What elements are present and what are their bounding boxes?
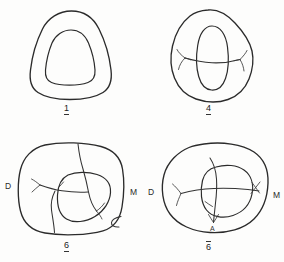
panel-4-orientation-mesial: M [273, 191, 280, 200]
panel-2-right-branch-lower [240, 60, 244, 72]
panel-4-transverse-fissure [181, 188, 259, 193]
panel-4-bottom-fork-left [209, 215, 214, 223]
figure-plate: 1 4 [0, 0, 284, 262]
panel-4-orientation-distal: D [148, 188, 154, 197]
panel-2-left-branch-upper [177, 50, 185, 59]
panel-4-left-branch-lower [177, 194, 182, 206]
panel-4-drawing [142, 131, 284, 262]
panel-3-inner-cusp-loop [57, 172, 110, 221]
panel-3-lower-left-fissure [51, 191, 55, 233]
panel-2-left-branch-lower [179, 58, 186, 70]
panel-3-orientation-distal: D [5, 182, 11, 191]
panel-2-right-branch-upper [240, 51, 247, 60]
panel-3-drawing [0, 131, 142, 262]
panel-3-mesial-vertical-fissure [78, 144, 97, 211]
panel-2-drawing [142, 0, 284, 131]
figure-panel-4: D M A 6 [142, 131, 284, 262]
panel-4-left-branch-upper [173, 184, 182, 194]
panel-1-inner-outline [45, 30, 95, 85]
panel-3-figure-label: 6 [64, 241, 69, 252]
panel-1-drawing [0, 0, 142, 131]
panel-2-transverse-fissure [185, 58, 240, 63]
panel-4-inner-cusp-loop [201, 165, 252, 217]
panel-4-mark-letter-a: A [210, 225, 215, 232]
panel-2-central-oval [197, 26, 229, 90]
figure-panel-2: 4 [142, 0, 284, 131]
panel-3-left-branch-upper [32, 179, 41, 185]
panel-1-figure-label: 1 [64, 104, 69, 115]
panel-2-right-branch-stem [234, 60, 240, 61]
panel-1-outer-outline [30, 11, 111, 100]
panel-2-figure-label: 4 [206, 104, 211, 115]
panel-3-orientation-mesial: M [130, 188, 137, 197]
panel-4-figure-label: 6 [206, 241, 211, 252]
figure-panel-1: 1 [0, 0, 142, 131]
figure-panel-3: D M 6 [0, 131, 142, 262]
panel-3-transverse-fissure [40, 185, 88, 192]
panel-4-inner-lower-tick [205, 202, 213, 207]
panel-3-left-branch-lower [32, 185, 40, 192]
panel-2-outer-outline [171, 10, 253, 102]
